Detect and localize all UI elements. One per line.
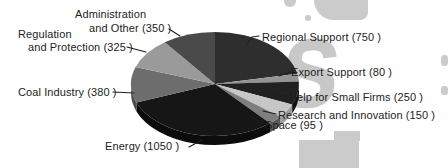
slice-label-regional-support: Regional Support (750 ) bbox=[262, 31, 381, 44]
slice-label-space: Space (95 ) bbox=[265, 119, 323, 132]
slice-label-energy: Energy (1050 ) bbox=[105, 140, 179, 153]
slice-label-regulation-line1: Regulation bbox=[18, 28, 72, 41]
pie-chart-figure: s Regional Support (750 ) Export Support… bbox=[0, 0, 448, 168]
slice-label-administration-line1: Administration bbox=[75, 8, 146, 21]
slice-label-export-support: Export Support (80 ) bbox=[291, 66, 392, 79]
slice-label-administration-line2: and Other (350 ) bbox=[89, 22, 171, 35]
pie-chart bbox=[0, 0, 448, 168]
slice-label-help-for-small-firms: Help for Small Firms (250 ) bbox=[289, 91, 423, 104]
slice-label-coal-industry: Coal Industry (380 ) bbox=[18, 86, 117, 99]
slice-label-regulation-line2: and Protection (325 ) bbox=[28, 41, 133, 54]
